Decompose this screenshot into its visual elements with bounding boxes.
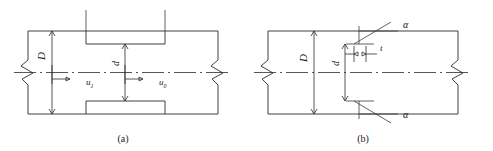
caption-b: (b) [357, 133, 369, 145]
label-alpha-top: α [403, 19, 409, 30]
diagram-panel-b: D α α d t (b) [246, 0, 493, 151]
upper-step-block [86, 31, 165, 44]
label-D: D [297, 54, 309, 63]
chamfer-angled-top [354, 22, 391, 44]
figure-root: D d u1 u0 (a) [0, 0, 493, 151]
chamfer-angled-bottom [354, 101, 391, 123]
diagram-panel-a: D d u1 u0 (a) [0, 0, 246, 151]
label-d: d [110, 60, 121, 66]
label-u1: u1 [86, 77, 94, 89]
arrowhead-thickness-right [362, 52, 366, 56]
label-d: d [330, 60, 341, 66]
label-u0: u0 [159, 77, 167, 89]
label-D: D [35, 52, 47, 61]
label-t: t [380, 43, 383, 53]
arrowhead-thickness-left [354, 52, 358, 56]
lower-step-block [86, 101, 165, 114]
caption-a: (a) [117, 133, 128, 145]
label-alpha-bottom: α [403, 109, 409, 120]
